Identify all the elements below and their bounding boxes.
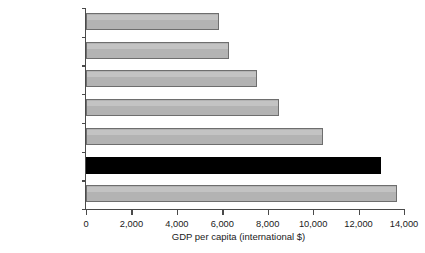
bar-row: Brazil [86,94,404,123]
x-axis-title-text: GDP per capita (international $) [172,231,305,242]
x-axis-tick-label: 14,000 [390,219,418,230]
x-axis-tick [359,209,360,215]
bar [86,99,279,116]
bar-sheen [87,72,256,77]
y-axis-tick [82,94,87,95]
bar-row: Peru [86,8,404,37]
x-axis-tick-label: 10,000 [299,219,327,230]
y-axis-tick [82,37,87,38]
x-axis-tick-label: 8,000 [256,219,279,230]
bar [86,70,257,87]
bar-sheen [87,130,322,135]
bar-row: Venezuela, R.B. de [86,37,404,66]
bar-sheen [87,101,278,106]
bar [86,185,397,202]
bar [86,42,229,59]
x-axis-tick [313,209,314,215]
bar-highlight [86,157,381,174]
x-axis-tick [404,209,405,215]
x-axis-tick-label: 2,000 [120,219,143,230]
x-axis-tick-label: 0 [83,219,88,230]
x-axis-title: GDP per capita (international $) [0,231,425,242]
x-axis-tick [86,209,87,215]
y-axis-tick [82,123,87,124]
x-axis-tick [268,209,269,215]
x-axis-tick-label: 12,000 [344,219,372,230]
bar [86,13,219,30]
bar-sheen [87,15,218,20]
bar-row: Mexico [86,123,404,152]
y-axis-tick [82,180,87,181]
bar [86,128,323,145]
bar-row: Colombia [86,65,404,94]
x-axis-tick-label: 6,000 [211,219,234,230]
bar-row: Chile [86,152,404,181]
y-axis-tick [82,65,87,66]
gdp-per-capita-bar-chart: PeruVenezuela, R.B. deColombiaBrazilMexi… [0,0,425,253]
x-axis-tick [222,209,223,215]
bar-sheen [87,44,228,49]
y-axis-tick [82,152,87,153]
y-axis-tick [82,8,87,9]
plot-area: PeruVenezuela, R.B. deColombiaBrazilMexi… [86,8,404,209]
x-axis-tick [131,209,132,215]
bar-sheen [87,187,396,192]
bar-row: Argentina [86,180,404,209]
x-axis-tick-label: 4,000 [165,219,188,230]
x-axis-tick [177,209,178,215]
